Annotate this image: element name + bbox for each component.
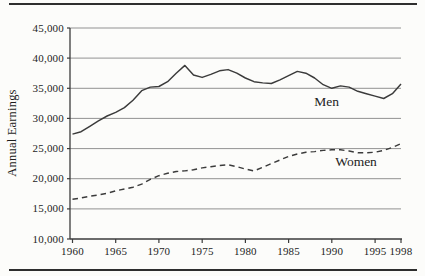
bottom-rule-divider <box>9 269 417 271</box>
women-line <box>73 144 402 200</box>
women-series-label: Women <box>335 154 377 169</box>
earnings-line-chart-figure: Annual Earnings 10,00015,00020,00025,000… <box>0 0 425 276</box>
gridlines <box>70 28 401 209</box>
men-line <box>73 65 402 134</box>
chart-plot-area: Men Women <box>0 0 425 276</box>
men-series-label: Men <box>314 94 339 109</box>
axes <box>67 28 402 243</box>
